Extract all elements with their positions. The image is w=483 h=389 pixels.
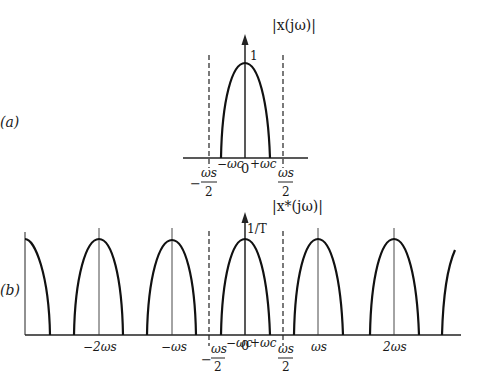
tick-neg-half-ws-num: ωs (211, 342, 227, 356)
tick-pos-half-ws-den: 2 (282, 360, 290, 374)
axis-arrow-icon (242, 34, 249, 45)
tick-pos-half-ws-num: ωs (278, 166, 294, 180)
tick-pos-2ws: 2ωs (382, 340, 407, 354)
panel-a: (a) |x(jω)| 1 − ωs 2 −ωc 0 +ωc ωs 2 (0, 17, 316, 199)
tick-neg-ws: −ωs (161, 340, 187, 354)
tick-neg-2ws: −2ωs (83, 340, 117, 354)
tick-neg-half-ws-num: ωs (201, 166, 217, 180)
tick-pos-half-ws-den: 2 (282, 185, 290, 199)
tick-neg-half-ws-den: 2 (205, 185, 213, 199)
spectrum-lobe-neg-2ws (74, 239, 123, 335)
tick-neg-half-ws-den: 2 (214, 360, 222, 374)
panel-b-label: (b) (0, 282, 20, 298)
tick-pos-wc: +ωc (250, 157, 277, 171)
spectrum-lobe-neg-ws (147, 240, 196, 335)
spectrum-lobe-neg-3ws (25, 239, 50, 335)
tick-neg-wc: −ωc (217, 157, 244, 171)
sampling-spectrum-diagram: (a) |x(jω)| 1 − ωs 2 −ωc 0 +ωc ωs 2 (b) (0, 0, 483, 389)
panel-a-peak-label: 1 (250, 49, 258, 63)
tick-neg-half-ws-sign: − (190, 176, 201, 191)
tick-zero: 0 (241, 338, 249, 353)
spectrum-lobe-pos-ws (294, 239, 343, 335)
spectrum-lobe-pos-2ws (370, 239, 419, 335)
panel-a-ylabel: |x(jω)| (272, 17, 316, 34)
panel-a-label: (a) (0, 114, 19, 130)
spectrum-lobe-pos-3ws (442, 250, 455, 335)
panel-b-ylabel: |x*(jω)| (272, 198, 323, 215)
tick-zero: 0 (241, 161, 249, 176)
tick-pos-half-ws-num: ωs (278, 342, 294, 356)
tick-pos-wc: +ωc (250, 336, 277, 350)
tick-pos-ws: ωs (311, 340, 327, 354)
panel-b: (b) |x*(jω)| 1/T −2ωs −ωs − ωs 2 −ωc (0, 198, 461, 374)
panel-b-peak-label: 1/T (247, 222, 267, 236)
